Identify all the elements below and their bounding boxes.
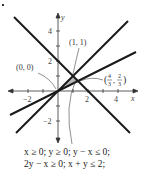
constraint-list: x ≥ 0; y ≥ 0; y − x ≤ 0; 2y − x ≥ 0; x +… (24, 146, 142, 170)
y-axis (56, 13, 60, 143)
y-axis-label: y (60, 13, 65, 22)
x-axis-label: x (130, 94, 135, 103)
line-x-plus-y-equals-2 (14, 17, 130, 133)
point-label-1-1: (1, 1) (69, 38, 87, 47)
x-tick-label: 2 (85, 95, 89, 104)
y-tick-label: 4 (48, 27, 52, 36)
x-tick-label: 4 (114, 95, 118, 104)
point-label-4-3-2-3: ( 4 3 , 2 3 ) (104, 73, 126, 87)
x-tick-label: −2 (23, 95, 32, 104)
constraint-line-1: x ≥ 0; y ≥ 0; y − x ≤ 0; (24, 146, 142, 158)
svg-text:): ) (123, 74, 126, 86)
point-label-0-0: (0, 0) (16, 63, 34, 72)
leader-0-0 (38, 73, 56, 89)
constraint-line-2: 2y − x ≥ 0; x + y ≤ 2; (24, 158, 142, 170)
svg-text:2: 2 (118, 73, 121, 79)
svg-text:3: 3 (118, 81, 121, 87)
y-tick-label: −2 (43, 117, 52, 126)
svg-text:3: 3 (108, 81, 111, 87)
leader-constraints (69, 80, 76, 144)
y-tick-label: 2 (48, 57, 52, 66)
svg-text:,: , (113, 76, 115, 85)
x-axis (8, 89, 138, 93)
svg-text:4: 4 (108, 73, 111, 79)
